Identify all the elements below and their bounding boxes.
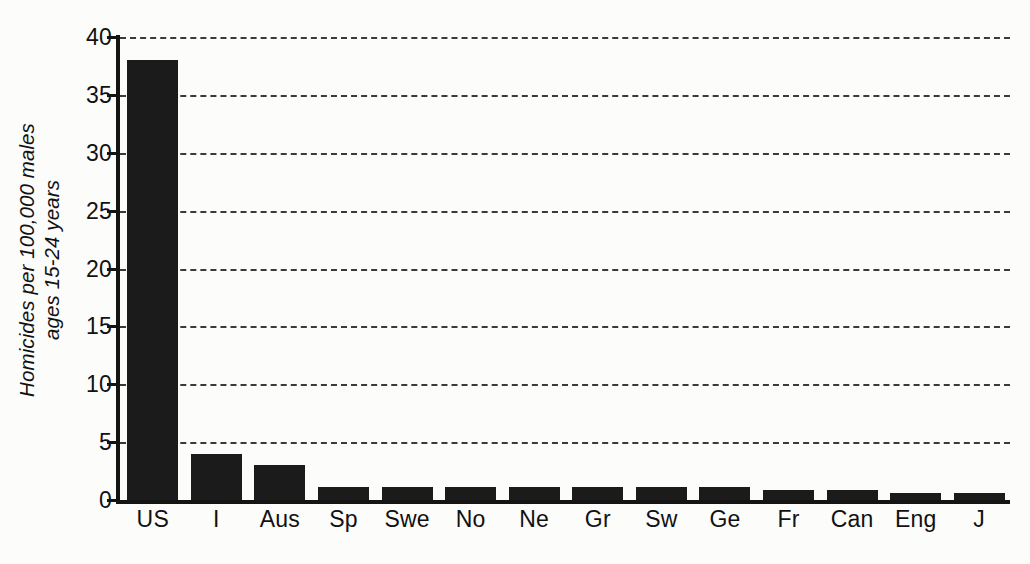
y-tick-label: 25 [68, 197, 112, 224]
y-tick-label: 10 [68, 371, 112, 398]
x-tick-label: Gr [562, 506, 634, 533]
bar [890, 493, 941, 500]
y-tick-label: 35 [68, 81, 112, 108]
x-tick-label: Ne [498, 506, 570, 533]
x-tick-label: Aus [244, 506, 316, 533]
x-tick-label: Can [816, 506, 888, 533]
bar [572, 487, 623, 500]
bar [509, 487, 560, 500]
x-tick-label: Swe [371, 506, 443, 533]
y-axis-title-text: Homicides per 100,000 males ages 15-24 y… [14, 123, 64, 397]
y-tick-label: 15 [68, 313, 112, 340]
bar [127, 60, 178, 500]
bars-group [120, 37, 1010, 500]
bar [763, 490, 814, 500]
bar [636, 487, 687, 500]
x-tick-label: Sp [308, 506, 380, 533]
bar [445, 487, 496, 500]
bar-chart-figure: Homicides per 100,000 males ages 15-24 y… [0, 0, 1030, 564]
y-tick-label: 20 [68, 255, 112, 282]
bar [254, 465, 305, 500]
y-tick-label: 40 [68, 24, 112, 51]
x-tick-label: No [435, 506, 507, 533]
x-tick-label: Eng [880, 506, 952, 533]
x-tick-label: Sw [625, 506, 697, 533]
x-tick-label: J [943, 506, 1015, 533]
x-tick-label: Ge [689, 506, 761, 533]
y-tick-label: 0 [68, 487, 112, 514]
plot-area [120, 37, 1010, 500]
bar [954, 493, 1005, 500]
bar [827, 490, 878, 500]
y-tick-label: 5 [68, 429, 112, 456]
x-axis-tick-labels: USIAusSpSweNoNeGrSwGeFrCanEngJ [120, 506, 1010, 546]
x-axis-line [116, 500, 1010, 504]
bar [382, 487, 433, 500]
x-tick-label: I [180, 506, 252, 533]
x-tick-label: Fr [753, 506, 825, 533]
y-axis-title-line-2: ages 15-24 years [39, 123, 64, 397]
y-axis-title-line-1: Homicides per 100,000 males [15, 123, 38, 397]
bar [191, 454, 242, 500]
x-tick-label: US [117, 506, 189, 533]
bar [318, 487, 369, 500]
y-axis-tick-labels: 0510152025303540 [64, 0, 112, 564]
y-tick-label: 30 [68, 139, 112, 166]
bar [699, 487, 750, 500]
